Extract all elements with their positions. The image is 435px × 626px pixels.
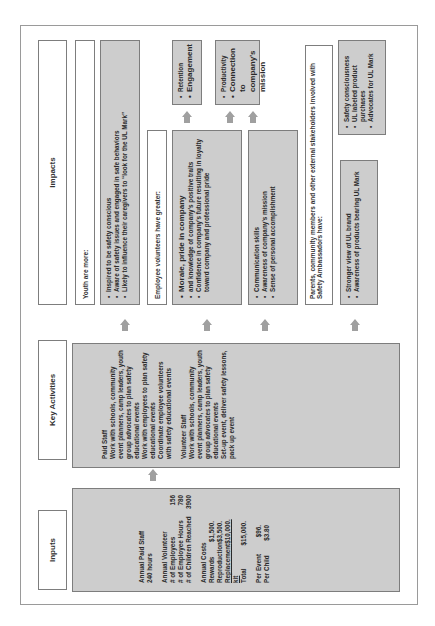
activity-item: Work with schools, community event plann… <box>188 350 220 459</box>
stakeholders-impacts-box: Stronger view of UL brand Awareness of p… <box>340 160 378 305</box>
employee-outcome-box-1: Retention Engagement <box>172 40 202 105</box>
cost-row-total: Total$15,000. <box>240 495 248 583</box>
paid-staff-activities-title: Paid Staff <box>101 350 109 459</box>
arrow-icon <box>225 113 235 123</box>
arrow-icon <box>148 471 158 481</box>
employee-impact-item: Sense of personal accomplishment <box>269 137 277 298</box>
inputs-header-label: Inputs <box>48 538 57 562</box>
stakeholder-impact-item: Awareness of products bearing UL Mark <box>353 167 361 298</box>
stakeholders-label: Parents, community members and other ext… <box>305 45 333 305</box>
per-row: Per Child$3.80 <box>263 495 271 583</box>
arrow-icon <box>350 321 360 331</box>
youth-label: Youth are more: <box>75 40 95 305</box>
activity-item: Work with employees to plan safety educa… <box>141 350 157 459</box>
logic-model-diagram: Inputs Key Activities Impacts Annual Pai… <box>20 25 418 605</box>
employee-impact-item: Communication skills <box>253 137 261 298</box>
arrow-icon <box>248 113 258 123</box>
impacts-header-label: Impacts <box>48 157 57 187</box>
outcome-item: Advocates for UL Mark <box>367 47 375 128</box>
activity-item: Coordinate employee volunteers with safe… <box>157 350 173 459</box>
youth-impacts-box: Inspired to be safety conscious Aware of… <box>100 40 140 305</box>
cost-row: Replacement kit$10,000. <box>224 495 240 583</box>
employee-outcome-box-2: Productivity Connection to company’s mis… <box>215 40 260 105</box>
employee-impact-item: Confidence in company’s future resulting… <box>195 137 211 298</box>
activity-item: Work with schools, community event plann… <box>109 350 141 459</box>
volunteer-row: # of Children Reached3900 <box>185 495 193 583</box>
volunteer-staff-activities-title: Volunteer Staff <box>180 350 188 459</box>
inputs-panel: Annual Paid Staff 240 hours Annual Volun… <box>72 488 400 592</box>
employee-impact-item-cont: and knowledge of company’s positive trai… <box>187 137 195 298</box>
stakeholders-outcome-box: Safety consciousness UL labeled product … <box>338 40 386 135</box>
youth-impact-item: Aware of safety issues and engaged in sa… <box>113 47 121 298</box>
youth-impact-item: Likely to influence their caregivers to … <box>121 47 129 298</box>
outcome-item: Engagement <box>185 47 195 98</box>
outcome-item: Productivity <box>220 47 228 98</box>
arrow-icon <box>260 321 270 331</box>
impacts-header: Impacts <box>38 40 67 305</box>
outcome-item: Connection to company’s mission <box>228 47 268 98</box>
arrow-icon <box>202 321 212 331</box>
employee-impacts-box-1: Morale, pride in company and knowledge o… <box>172 130 242 305</box>
volunteer-title: Annual Volunteer <box>161 495 169 583</box>
per-row: Per Event$96. <box>255 495 263 583</box>
employee-label: Employee volunteers have greater: <box>147 130 167 305</box>
key-activities-header: Key Activities <box>38 340 67 460</box>
employee-impact-item: Morale, pride in company <box>177 137 187 298</box>
cost-row: Rewards$1,500. <box>208 495 216 583</box>
cost-row: Reproduction$3,500. <box>216 495 224 583</box>
outcome-item: UL labeled product purchases <box>351 47 367 128</box>
arrow-icon <box>120 321 130 331</box>
volunteer-row: # of Employees156 <box>169 495 177 583</box>
volunteer-row: # of Employee Hours780 <box>177 495 185 583</box>
key-activities-panel: Paid Staff Work with schools, community … <box>72 343 400 468</box>
activity-item: Set-up event, deliver safety lessons, pa… <box>220 350 236 459</box>
outcome-item: Retention <box>177 47 185 98</box>
costs-title: Annual Costs <box>200 495 208 583</box>
paid-staff-hours: 240 hours <box>146 495 154 583</box>
stakeholder-impact-item: Stronger view of UL brand <box>345 167 353 298</box>
employee-impact-item: Awareness of company’s mission <box>261 137 269 298</box>
inputs-header: Inputs <box>38 510 67 590</box>
youth-impact-item: Inspired to be safety conscious <box>105 47 113 298</box>
paid-staff-title: Annual Paid Staff <box>138 495 146 583</box>
outcome-item: Safety consciousness <box>343 47 351 128</box>
arrow-icon <box>182 113 192 123</box>
key-activities-header-label: Key Activities <box>48 374 57 426</box>
employee-impacts-box-2: Communication skills Awareness of compan… <box>248 130 298 305</box>
